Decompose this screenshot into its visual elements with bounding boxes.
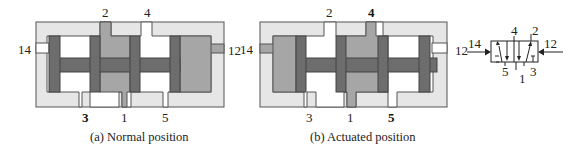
port-label-3: 3 — [306, 110, 313, 125]
port-label-1: 1 — [121, 110, 128, 125]
spool-land-2 — [90, 36, 100, 92]
spool-land-2 — [336, 36, 346, 92]
valve-figure: 2 4 14 12 3 1 5 (a) Normal position 2 4 … — [0, 0, 576, 150]
port-label-3: 3 — [82, 110, 89, 125]
panel-actuated-position: 2 4 14 12 3 1 5 (b) Actuated position — [240, 5, 468, 144]
spool-land-4 — [170, 36, 180, 92]
port-label-14: 14 — [240, 42, 254, 57]
arrow-right-icon — [485, 49, 491, 56]
port-label-5: 5 — [162, 110, 169, 125]
port-label-2: 2 — [326, 5, 333, 20]
panel-normal-position: 2 4 14 12 3 1 5 (a) Normal position — [18, 5, 241, 144]
port-label-4: 4 — [368, 5, 375, 20]
port-label-5: 5 — [388, 110, 395, 125]
pilot-port-12 — [432, 43, 447, 53]
spool-rod — [58, 58, 180, 72]
caption-actuated-position: (b) Actuated position — [310, 130, 416, 144]
port-label-2: 2 — [102, 5, 109, 20]
symbol-label-1: 1 — [519, 71, 526, 86]
symbol-flow-line — [499, 46, 502, 62]
arrow-up-icon — [528, 41, 532, 46]
symbol-label-4: 4 — [511, 23, 518, 38]
symbol-label-3: 3 — [530, 64, 537, 79]
port-label-4: 4 — [144, 5, 151, 20]
pilot-port-14 — [36, 43, 49, 53]
spool-land-4 — [419, 36, 430, 92]
spool-land-3 — [378, 36, 388, 92]
port-label-14: 14 — [18, 42, 32, 57]
spool-land-1 — [49, 36, 60, 92]
valve-iso-symbol: 14 12 4 2 5 1 3 — [467, 23, 563, 86]
symbol-label-12: 12 — [544, 36, 557, 51]
symbol-label-2: 2 — [532, 23, 539, 38]
pilot-port-14 — [260, 44, 274, 53]
pilot-chamber-left — [273, 36, 296, 92]
spool-land-1 — [296, 36, 306, 92]
arrow-down-icon — [505, 56, 509, 61]
symbol-label-14: 14 — [468, 36, 482, 51]
port-label-12: 12 — [455, 43, 468, 58]
caption-normal-position: (a) Normal position — [90, 130, 189, 144]
spool-land-3 — [130, 36, 140, 92]
port-label-1: 1 — [347, 110, 354, 125]
pilot-chamber-right — [180, 36, 211, 92]
symbol-flow-line — [526, 46, 530, 62]
arrow-down-icon — [517, 56, 521, 61]
pilot-port-12 — [210, 44, 224, 53]
symbol-label-5: 5 — [502, 64, 509, 79]
spool-rod — [305, 58, 437, 72]
